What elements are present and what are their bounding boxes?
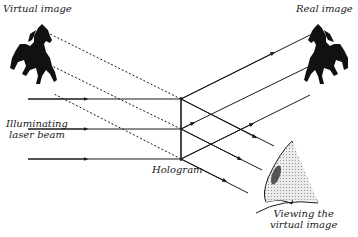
real-image-horse-icon bbox=[304, 24, 348, 84]
real-image-rays bbox=[181, 32, 316, 159]
laser-beam-label: Illuminating laser beam bbox=[6, 118, 68, 140]
virtual-image-horse-icon bbox=[10, 24, 57, 84]
virtual-ray-lines bbox=[48, 33, 181, 159]
hologram-label: Hologram bbox=[152, 164, 203, 175]
eye-icon bbox=[256, 141, 318, 213]
viewing-label: Viewing the virtual image bbox=[270, 208, 337, 230]
real-image-label: Real image bbox=[296, 3, 353, 14]
viewing-label-line2: virtual image bbox=[270, 219, 337, 230]
laser-beam-label-line2: laser beam bbox=[6, 129, 68, 140]
laser-beam-label-line1: Illuminating bbox=[6, 118, 68, 129]
virtual-image-label: Virtual image bbox=[3, 3, 72, 14]
viewing-rays bbox=[181, 99, 274, 193]
viewing-label-line1: Viewing the bbox=[270, 208, 337, 219]
